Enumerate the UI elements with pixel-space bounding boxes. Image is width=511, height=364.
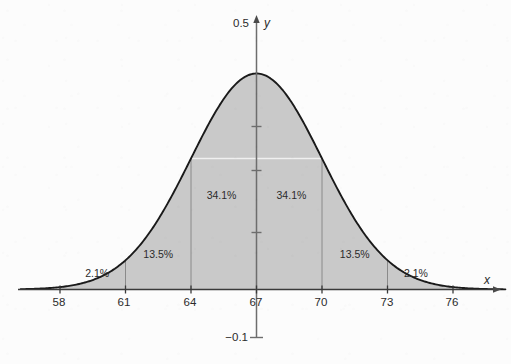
band-percent-label-1: 13.5%	[143, 248, 173, 260]
y-axis-bottom-label: −0.1	[225, 331, 248, 343]
band-percent-label-2: 34.1%	[207, 189, 237, 201]
band-percent-label-4: 13.5%	[340, 248, 370, 260]
band-percent-label-3: 34.1%	[277, 189, 307, 201]
band-percent-label-0: 2.1%	[85, 267, 109, 279]
x-tick-label-76: 76	[446, 296, 459, 308]
x-tick-label-61: 61	[118, 296, 131, 308]
chart-canvas: 58 61 64 67 70 73 76 0.5 −0.1 x y 2.1%13…	[0, 0, 511, 364]
x-tick-label-73: 73	[381, 296, 394, 308]
x-tick-label-58: 58	[53, 296, 66, 308]
y-axis-top-label: 0.5	[233, 17, 249, 29]
x-axis-name-label: x	[483, 273, 491, 287]
band-percent-label-5: 2.1%	[404, 267, 428, 279]
x-tick-label-70: 70	[315, 296, 328, 308]
y-axis-name-label: y	[263, 16, 271, 30]
x-tick-label-67: 67	[250, 296, 263, 308]
normal-distribution-chart: 58 61 64 67 70 73 76 0.5 −0.1 x y 2.1%13…	[0, 0, 511, 364]
x-tick-label-64: 64	[184, 296, 197, 308]
